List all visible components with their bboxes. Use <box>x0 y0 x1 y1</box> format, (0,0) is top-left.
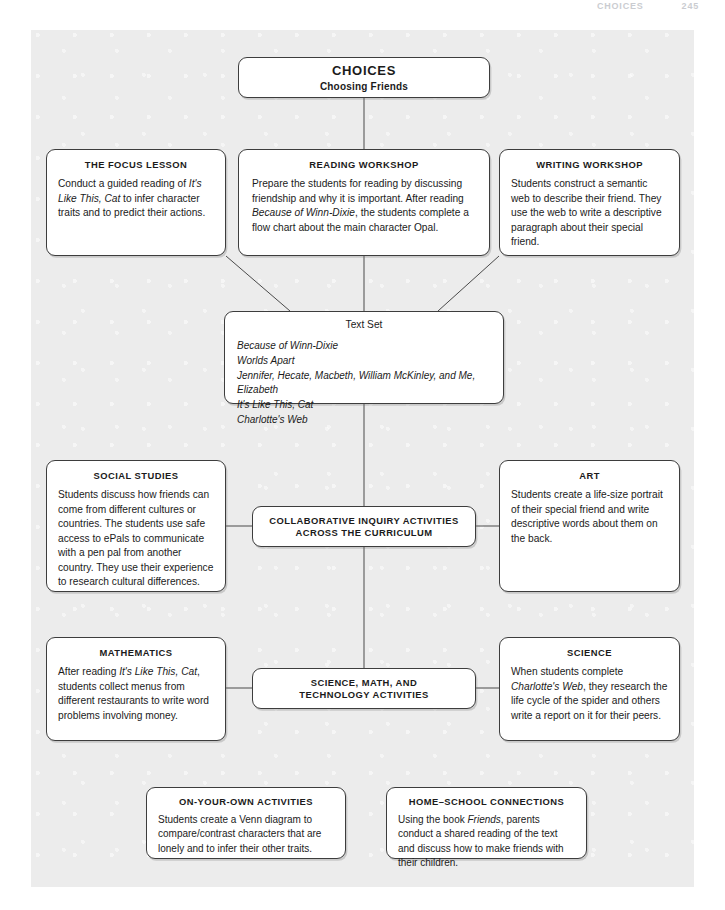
focus-lesson-body-pre: Conduct a guided reading of <box>58 178 189 189</box>
science-math-technology-line1: SCIENCE, MATH, AND <box>311 677 418 688</box>
home-school-heading: HOME–SCHOOL CONNECTIONS <box>398 796 575 807</box>
running-head-chapter: CHOICES <box>597 1 644 11</box>
text-set-heading: Text Set <box>237 319 491 331</box>
node-social-studies[interactable]: SOCIAL STUDIES Students discuss how frie… <box>46 460 226 592</box>
collaborative-inquiry-heading: COLLABORATIVE INQUIRY ACTIVITIES ACROSS … <box>269 515 458 538</box>
root-title: CHOICES <box>332 63 396 78</box>
mathematics-heading: MATHEMATICS <box>58 647 214 658</box>
text-set-item: It's Like This, Cat <box>237 398 491 413</box>
page-canvas: CHOICES 245 CHOICE <box>0 0 725 910</box>
home-school-body: Using the book Friends, parents conduct … <box>398 813 575 870</box>
reading-workshop-body-title: Because of Winn-Dixie <box>252 207 355 218</box>
text-set-item: Because of Winn-Dixie <box>237 339 491 354</box>
reading-workshop-heading: READING WORKSHOP <box>252 159 476 170</box>
mathematics-body: After reading It's Like This, Cat, stude… <box>58 665 214 723</box>
node-writing-workshop[interactable]: WRITING WORKSHOP Students construct a se… <box>499 149 680 256</box>
running-head-page-number: 245 <box>682 1 699 11</box>
node-science[interactable]: SCIENCE When students complete Charlotte… <box>499 637 680 741</box>
node-reading-workshop[interactable]: READING WORKSHOP Prepare the students fo… <box>238 149 490 256</box>
science-heading: SCIENCE <box>511 647 668 658</box>
reading-workshop-body: Prepare the students for reading by disc… <box>252 177 476 235</box>
focus-lesson-body: Conduct a guided reading of It's Like Th… <box>58 177 214 220</box>
collaborative-inquiry-line2: ACROSS THE CURRICULUM <box>295 527 432 538</box>
home-school-body-title: Friends <box>468 814 501 825</box>
science-body-pre: When students complete <box>511 666 623 677</box>
text-set-item: Worlds Apart <box>237 354 491 369</box>
node-choices-root[interactable]: CHOICES Choosing Friends <box>238 57 490 98</box>
node-home-school-connections[interactable]: HOME–SCHOOL CONNECTIONS Using the book F… <box>386 787 587 859</box>
node-collaborative-inquiry[interactable]: COLLABORATIVE INQUIRY ACTIVITIES ACROSS … <box>252 506 476 547</box>
social-studies-body: Students discuss how friends can come fr… <box>58 488 214 589</box>
node-mathematics[interactable]: MATHEMATICS After reading It's Like This… <box>46 637 226 741</box>
node-science-math-technology[interactable]: SCIENCE, MATH, AND TECHNOLOGY ACTIVITIES <box>252 668 476 709</box>
art-heading: ART <box>511 470 668 481</box>
science-math-technology-heading: SCIENCE, MATH, AND TECHNOLOGY ACTIVITIES <box>299 677 428 700</box>
writing-workshop-body: Students construct a semantic web to des… <box>511 177 668 249</box>
on-your-own-body: Students create a Venn diagram to compar… <box>158 813 334 856</box>
on-your-own-heading: ON-YOUR-OWN ACTIVITIES <box>158 796 334 807</box>
social-studies-heading: SOCIAL STUDIES <box>58 470 214 481</box>
running-head: CHOICES 245 <box>597 1 699 11</box>
collaborative-inquiry-line1: COLLABORATIVE INQUIRY ACTIVITIES <box>269 515 458 526</box>
focus-lesson-heading: THE FOCUS LESSON <box>58 159 214 170</box>
writing-workshop-heading: WRITING WORKSHOP <box>511 159 668 170</box>
text-set-item: Jennifer, Hecate, Macbeth, William McKin… <box>237 369 491 398</box>
node-focus-lesson[interactable]: THE FOCUS LESSON Conduct a guided readin… <box>46 149 226 256</box>
node-text-set[interactable]: Text Set Because of Winn-Dixie Worlds Ap… <box>224 311 504 404</box>
home-school-body-pre: Using the book <box>398 814 468 825</box>
node-on-your-own-activities[interactable]: ON-YOUR-OWN ACTIVITIES Students create a… <box>146 787 346 859</box>
mathematics-body-pre: After reading <box>58 666 119 677</box>
text-set-list: Because of Winn-Dixie Worlds Apart Jenni… <box>237 339 491 427</box>
science-math-technology-line2: TECHNOLOGY ACTIVITIES <box>299 689 428 700</box>
science-body-title: Charlotte's Web <box>511 681 583 692</box>
root-subtitle: Choosing Friends <box>320 81 408 92</box>
reading-workshop-body-pre: Prepare the students for reading by disc… <box>252 178 464 203</box>
mathematics-body-title: It's Like This, Cat <box>119 666 197 677</box>
text-set-item: Charlotte's Web <box>237 413 491 428</box>
art-body: Students create a life-size portrait of … <box>511 488 668 546</box>
node-art[interactable]: ART Students create a life-size portrait… <box>499 460 680 592</box>
science-body: When students complete Charlotte's Web, … <box>511 665 668 723</box>
